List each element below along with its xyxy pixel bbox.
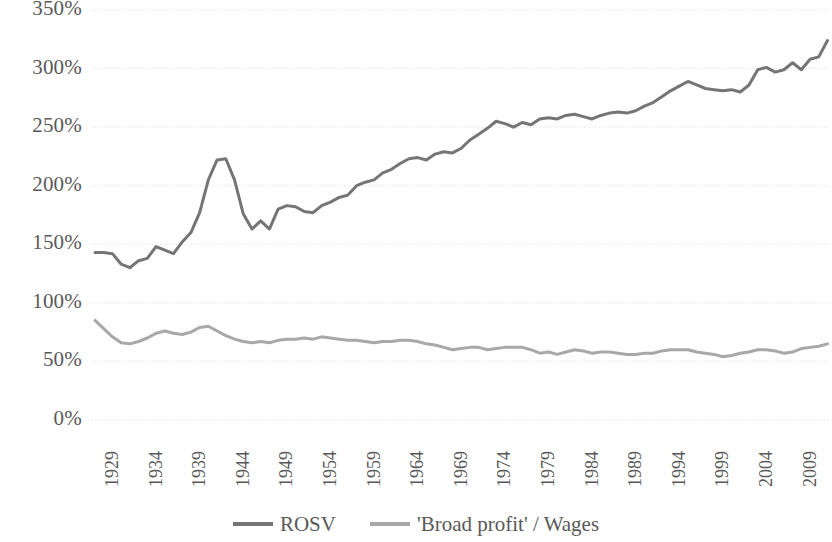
y-axis-tick-label: 350% xyxy=(0,0,82,21)
data-series-group xyxy=(95,40,827,356)
x-axis-tick-label: 1944 xyxy=(233,451,254,487)
x-axis-tick-label: 1979 xyxy=(538,451,559,487)
series-line-1 xyxy=(95,40,827,267)
x-axis-tick-label: 1999 xyxy=(712,451,733,487)
x-axis-tick-label: 1984 xyxy=(582,451,603,487)
legend-line-swatch xyxy=(370,522,410,526)
x-axis-tick-label: 1969 xyxy=(451,451,472,487)
y-axis-tick-label: 300% xyxy=(0,55,82,80)
x-axis-tick-label: 1974 xyxy=(494,451,515,487)
x-axis-tick-label: 1954 xyxy=(320,451,341,487)
y-axis-tick-label: 50% xyxy=(0,347,82,372)
legend-item-label: ROSV xyxy=(280,512,336,537)
x-axis-tick-label: 1994 xyxy=(669,451,690,487)
x-axis-tick-label: 1929 xyxy=(102,451,123,487)
y-axis-tick-label: 200% xyxy=(0,172,82,197)
series-line-2 xyxy=(95,320,827,356)
y-axis-tick-label: 250% xyxy=(0,113,82,138)
legend-line-swatch xyxy=(233,522,273,526)
x-axis-tick-label: 1949 xyxy=(276,451,297,487)
y-axis-tick-label: 150% xyxy=(0,230,82,255)
x-axis-tick-label: 1964 xyxy=(407,451,428,487)
x-axis-tick-label: 1989 xyxy=(625,451,646,487)
chart-container: 0%50%100%150%200%250%300%350% 1929193419… xyxy=(0,0,832,542)
x-axis-tick-label: 1939 xyxy=(189,451,210,487)
x-axis-tick-label: 2009 xyxy=(800,451,821,487)
x-axis-tick-label: 2004 xyxy=(756,451,777,487)
legend-item[interactable]: 'Broad profit' / Wages xyxy=(370,512,599,537)
x-axis-tick-label: 1959 xyxy=(364,451,385,487)
legend-item-label: 'Broad profit' / Wages xyxy=(417,512,599,537)
x-axis-tick-label: 1934 xyxy=(146,451,167,487)
y-axis-tick-label: 100% xyxy=(0,289,82,314)
y-axis-tick-label: 0% xyxy=(0,406,82,431)
gridlines xyxy=(92,10,828,420)
chart-legend: ROSV'Broad profit' / Wages xyxy=(0,506,832,542)
legend-item[interactable]: ROSV xyxy=(233,512,336,537)
